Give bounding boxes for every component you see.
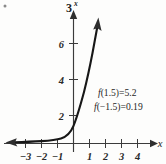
x-tick-label--2: −2 xyxy=(36,151,48,162)
x-tick-label--3: −3 xyxy=(20,151,32,162)
svg-text:f(1.5)=5.2: f(1.5)=5.2 xyxy=(98,87,137,99)
chart-canvas: −3 −2 −1 1 2 3 4 2 4 6 x 3 x f(1.5)=5.2 xyxy=(0,0,166,164)
x-tick-labels: −3 −2 −1 1 2 3 4 xyxy=(20,151,140,162)
annotation-1-arg: (1.5) xyxy=(101,87,119,99)
y-tick-label-6: 6 xyxy=(59,39,65,50)
y-axis-label-base: 3 xyxy=(66,1,72,15)
x-tick-label--1: −1 xyxy=(52,151,64,162)
exponential-function-graph-figure: −3 −2 −1 1 2 3 4 2 4 6 x 3 x f(1.5)=5.2 xyxy=(0,0,166,164)
y-tick-label-2: 2 xyxy=(58,111,65,122)
svg-text:f(−1.5)=0.19: f(−1.5)=0.19 xyxy=(94,101,143,113)
x-tick-label-3: 3 xyxy=(118,151,124,162)
annotation-1-value: 5.2 xyxy=(124,87,136,98)
y-tick-label-4: 4 xyxy=(58,75,64,86)
annotation-f-at-1p5: f(1.5)=5.2 xyxy=(98,87,137,99)
scan-speck xyxy=(4,5,7,8)
x-axis-label: x xyxy=(157,138,163,149)
annotation-2-arg: (−1.5) xyxy=(97,101,121,113)
annotation-2-value: 0.19 xyxy=(126,101,143,112)
x-tick-label-2: 2 xyxy=(102,151,109,162)
exponential-curve xyxy=(14,28,97,143)
y-axis-label-exponent: x xyxy=(73,0,78,8)
y-tick-labels: 2 4 6 xyxy=(58,39,65,122)
y-axis-label-group: 3 x xyxy=(66,0,78,15)
function-curve-group xyxy=(6,18,102,147)
x-tick-label-4: 4 xyxy=(134,151,140,162)
annotation-f-at-neg1p5: f(−1.5)=0.19 xyxy=(94,101,143,113)
x-tick-label-1: 1 xyxy=(87,151,92,162)
